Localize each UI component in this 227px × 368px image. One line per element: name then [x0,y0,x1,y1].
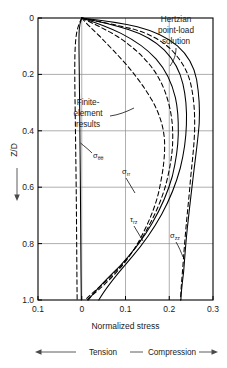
annotation-finite-element: Finite- element results [73,98,134,129]
tau-rz-symbol: τrz [130,215,138,225]
stress-distribution-chart: 0 0.2 0.4 0.6 0.8 1.0 0.1 0 0.1 0.2 0.3 … [0,0,227,368]
y-tick-label-4: 0.8 [22,239,34,249]
tension-compression-bar: Tension Compression [35,348,218,357]
figure-container: 0 0.2 0.4 0.6 0.8 1.0 0.1 0 0.1 0.2 0.3 … [0,0,227,368]
y-tick-label-1: 0.2 [22,69,34,79]
x-tick-label-3: 0.2 [163,304,175,314]
x-axis-title: Normalized stress [91,321,159,331]
hertzian-line-3: solution [162,37,191,46]
y-axis-ticks [38,18,42,300]
curve-label-sigma-theta-theta: σθθ [81,143,104,161]
y-tick-label-0: 0 [29,13,34,23]
x-tick-label-4: 0.3 [207,304,219,314]
y-tick-label-3: 0.6 [22,182,34,192]
grid-lines [38,18,213,300]
x-tick-label-1: 0 [79,304,84,314]
hertzian-line-2: point-load [158,26,194,35]
fem-line-1: Finite- [77,98,100,107]
compression-label: Compression [148,348,197,357]
x-axis-ticks [38,296,213,300]
x-tick-label-2: 0.1 [120,304,132,314]
sigma-theta-symbol: σθθ [93,151,104,161]
annotation-hertzian: Hertzian point-load solution [158,15,194,66]
hertzian-line-1: Hertzian [161,15,192,24]
tension-label: Tension [89,348,118,357]
sigma-rr-symbol: σrr [122,167,130,177]
curve-label-tau-rz: τrz [130,215,143,241]
y-direction-arrow-icon [14,168,20,201]
x-tick-label-0: 0.1 [32,304,44,314]
fem-line-2: element [73,109,103,118]
tension-arrow-icon [35,349,42,355]
curve-sigma-theta-theta-hertzian [79,18,82,300]
curve-label-sigma-zz: σzz [170,231,183,257]
sigma-zz-symbol: σzz [170,231,180,241]
y-tick-label-2: 0.4 [22,126,34,136]
fem-line-3: results [76,120,100,129]
curve-label-sigma-rr: σrr [122,167,135,193]
compression-arrow-icon [212,349,219,355]
y-axis-title: Z/D [9,143,19,157]
